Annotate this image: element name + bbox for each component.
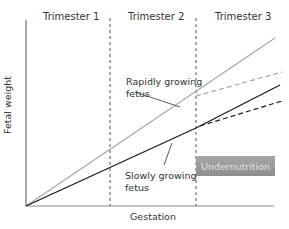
slow-growth-label-line2: fetus: [125, 182, 149, 193]
slow-growth-label-line1: Slowly growing: [125, 170, 197, 181]
rapid-growth-undernutrition-line: [196, 72, 282, 96]
trimester-1-label: Trimester 1: [43, 11, 99, 22]
slow-label-leader: [164, 143, 172, 165]
trimester-3-label: Trimester 3: [215, 11, 271, 22]
slow-growth-line: [26, 85, 280, 206]
rapid-growth-label-line2: fetus: [126, 88, 150, 99]
rapid-growth-label-line1: Rapidly growing: [126, 76, 202, 87]
undernutrition-label: Undernutrition: [196, 156, 275, 176]
x-axis-label: Gestation: [130, 211, 176, 222]
trimester-2-label: Trimester 2: [128, 11, 184, 22]
growth-chart: [0, 0, 289, 229]
y-axis-label: Fetal weight: [2, 76, 13, 134]
